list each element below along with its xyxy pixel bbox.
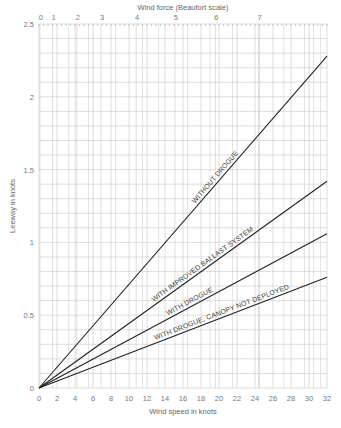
y-tick-label: 2	[30, 93, 34, 102]
x-tick-label: 24	[251, 394, 259, 403]
x-tick-label: 2	[55, 394, 59, 403]
beaufort-tick-label: 2	[76, 13, 80, 22]
grid	[39, 24, 327, 388]
x-tick-label: 18	[197, 394, 205, 403]
beaufort-tick-label: 5	[174, 13, 178, 22]
beaufort-tick-label: 1	[51, 13, 55, 22]
x-tick-label: 26	[269, 394, 277, 403]
x-tick-label: 30	[305, 394, 313, 403]
x-tick-label: 6	[91, 394, 95, 403]
x-tick-label: 20	[215, 394, 223, 403]
left-axis-title: Leeway in knots	[8, 179, 17, 233]
x-tick-label: 4	[73, 394, 77, 403]
y-tick-label: 2.5	[24, 20, 34, 29]
beaufort-tick-label: 3	[100, 13, 104, 22]
y-tick-label: 1	[30, 238, 34, 247]
x-tick-label: 10	[125, 394, 133, 403]
x-tick-label: 0	[37, 394, 41, 403]
x-tick-label: 28	[287, 394, 295, 403]
beaufort-tick-label: 4	[135, 13, 139, 22]
beaufort-tick-label: 7	[258, 13, 262, 22]
series-label: WITHOUT DROGUE	[190, 149, 239, 204]
x-tick-label: 8	[109, 394, 113, 403]
y-tick-label: 0.5	[24, 311, 34, 320]
beaufort-tick-label: 0	[39, 13, 43, 22]
bottom-axis-title: Wind speed in knots	[149, 407, 217, 416]
line-labels: WITHOUT DROGUEWITH IMPROVED BALLAST SYST…	[150, 149, 290, 341]
x-tick-label: 22	[233, 394, 241, 403]
leeway-chart: 0246810121416182022242628303200.511.522.…	[0, 0, 341, 428]
y-tick-label: 0	[30, 384, 34, 393]
x-tick-label: 32	[323, 394, 331, 403]
x-tick-label: 14	[161, 394, 169, 403]
series-label: WITH DROGUE	[165, 286, 214, 317]
y-tick-label: 1.5	[24, 166, 34, 175]
x-tick-label: 16	[179, 394, 187, 403]
beaufort-tick-label: 6	[214, 13, 218, 22]
top-axis-title: Wind force (Beaufort scale)	[138, 3, 229, 12]
x-tick-label: 12	[143, 394, 151, 403]
